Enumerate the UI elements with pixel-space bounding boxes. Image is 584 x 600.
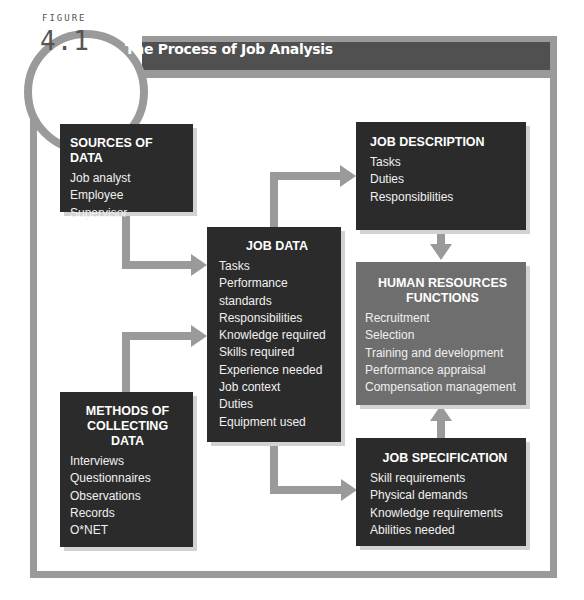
list-item: Interviews (70, 453, 185, 470)
sources-of-data-title: SOURCES OF DATA (70, 136, 185, 166)
list-item: Duties (219, 396, 335, 413)
arrow-description-horizontal (270, 172, 340, 180)
list-item: Performance (219, 275, 335, 292)
job-description-list: Tasks Duties Responsibilities (370, 154, 518, 206)
list-item: Responsibilities (219, 310, 335, 327)
list-item: Training and development (365, 345, 520, 362)
list-item: Physical demands (370, 487, 520, 504)
arrow-specification-horizontal (270, 486, 342, 494)
hr-functions-title: HUMAN RESOURCES FUNCTIONS (365, 276, 520, 306)
hr-functions-box: HUMAN RESOURCES FUNCTIONS Recruitment Se… (356, 262, 526, 405)
arrow-description-head (340, 165, 356, 187)
list-item: Skill requirements (370, 470, 520, 487)
sources-of-data-list: Job analyst Employee Supervisor (70, 170, 185, 222)
arrow-desc-to-hr-head (430, 244, 452, 260)
job-description-box: JOB DESCRIPTION Tasks Duties Responsibil… (356, 122, 526, 230)
arrow-description-vertical (270, 172, 278, 228)
hr-functions-title-line1: HUMAN RESOURCES (365, 276, 520, 291)
job-data-list: Tasks Performance standards Responsibili… (219, 258, 335, 431)
methods-box: METHODS OF COLLECTING DATA Interviews Qu… (60, 392, 193, 547)
sources-of-data-box: SOURCES OF DATA Job analyst Employee Sup… (60, 124, 193, 212)
list-item: Records (70, 505, 185, 522)
list-item: standards (219, 293, 335, 310)
list-item: Skills required (219, 344, 335, 361)
list-item: Recruitment (365, 310, 520, 327)
job-specification-list: Skill requirements Physical demands Know… (370, 470, 520, 539)
arrow-sources-horizontal (122, 261, 192, 269)
arrow-methods-head (191, 325, 207, 347)
list-item: Job analyst (70, 170, 185, 187)
figure-number: 4.1 (40, 26, 90, 56)
list-item: Observations (70, 488, 185, 505)
figure-label: FIGURE (42, 13, 87, 23)
list-item: Employee (70, 187, 185, 204)
list-item: Tasks (370, 154, 518, 171)
list-item: Tasks (219, 258, 335, 275)
list-item: Selection (365, 327, 520, 344)
methods-title-line2: COLLECTING DATA (70, 419, 185, 449)
methods-title: METHODS OF COLLECTING DATA (70, 404, 185, 449)
list-item: O*NET (70, 522, 185, 539)
job-specification-box: JOB SPECIFICATION Skill requirements Phy… (356, 438, 526, 546)
job-description-title: JOB DESCRIPTION (370, 135, 518, 150)
methods-title-line1: METHODS OF (70, 404, 185, 419)
arrow-methods-vertical (122, 332, 130, 392)
arrow-sources-head (191, 254, 207, 276)
hr-functions-list: Recruitment Selection Training and devel… (365, 310, 520, 396)
list-item: Questionnaires (70, 470, 185, 487)
arrow-spec-to-hr-shaft (437, 420, 445, 438)
list-item: Experience needed (219, 362, 335, 379)
list-item: Knowledge requirements (370, 505, 520, 522)
job-data-box: JOB DATA Tasks Performance standards Res… (207, 227, 341, 442)
job-data-title: JOB DATA (219, 239, 335, 254)
arrow-methods-horizontal (122, 332, 192, 340)
methods-list: Interviews Questionnaires Observations R… (70, 453, 185, 539)
list-item: Equipment used (219, 414, 335, 431)
arrow-desc-to-hr-shaft (437, 231, 445, 245)
list-item: Abilities needed (370, 522, 520, 539)
list-item: Job context (219, 379, 335, 396)
job-specification-title: JOB SPECIFICATION (370, 451, 520, 466)
arrow-specification-head (341, 479, 357, 501)
arrow-spec-to-hr-head (430, 405, 452, 421)
list-item: Supervisor (70, 205, 185, 222)
list-item: Duties (370, 171, 518, 188)
list-item: Performance appraisal (365, 362, 520, 379)
list-item: Knowledge required (219, 327, 335, 344)
list-item: Responsibilities (370, 189, 518, 206)
list-item: Compensation management (365, 379, 520, 396)
hr-functions-title-line2: FUNCTIONS (365, 291, 520, 306)
figure-title: The Process of Job Analysis (125, 41, 333, 57)
